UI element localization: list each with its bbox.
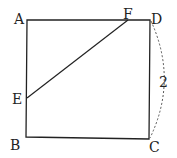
label-f: F — [123, 6, 133, 22]
arc-length-label: 2 — [159, 74, 168, 90]
label-d: D — [151, 11, 162, 27]
geometry-diagram: A B C D E F 2 — [0, 0, 177, 158]
label-a: A — [13, 11, 25, 27]
square-abcd — [26, 20, 150, 139]
label-b: B — [10, 137, 20, 153]
label-e: E — [12, 91, 22, 107]
segment-ef — [27, 20, 128, 98]
label-c: C — [149, 139, 160, 155]
